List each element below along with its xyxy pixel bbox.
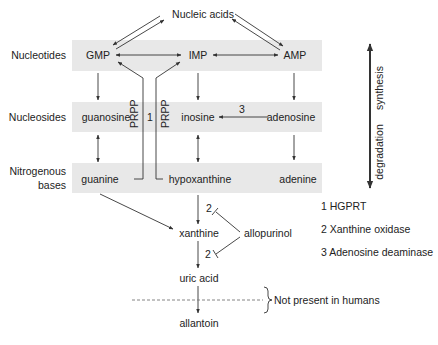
purine-metabolism-diagram: Nucleotides Nucleosides Nitrogenous base… [0,0,438,345]
node-adenosine: adenosine [267,111,316,123]
node-amp: AMP [284,49,307,61]
synthesis-label: synthesis [373,66,385,110]
row-label-bases-line1: Nitrogenous [9,165,66,177]
row-label-nucleosides: Nucleosides [9,111,66,123]
node-adenine: adenine [279,173,317,185]
row-label-bases-line2: bases [38,179,66,191]
node-uric-acid: uric acid [179,272,218,284]
node-inosine: inosine [181,111,214,123]
node-allopurinol: allopurinol [244,227,292,239]
node-guanosine: guanosine [82,111,131,123]
not-present-brace [264,287,272,313]
legend-item-1: 1 HGPRT [321,200,367,212]
enzyme-label-2-lower: 2 [205,248,211,260]
inhibit-bar-upper [212,208,218,215]
not-present-note: Not present in humans [274,294,380,306]
node-xanthine: xanthine [179,227,219,239]
arrow-guanine-xanthine [100,194,173,229]
inhibit-line-lower [216,237,240,254]
inhibit-line-upper [216,212,240,232]
enzyme-label-2-upper: 2 [206,202,212,214]
legend-item-2: 2 Xanthine oxidase [321,223,410,235]
degradation-label: degradation [373,124,385,180]
node-gmp: GMP [86,49,110,61]
legend-item-3: 3 Adenosine deaminase [321,246,433,258]
node-guanine: guanine [81,173,119,185]
node-hypoxanthine: hypoxanthine [169,173,232,185]
prpp-left-label: PRPP [128,99,140,128]
row-label-nucleotides: Nucleotides [11,49,66,61]
node-nucleic-acids: Nucleic acids [172,8,234,20]
node-allantoin: allantoin [179,317,218,329]
node-imp: IMP [189,49,208,61]
prpp-right-label: PRPP [159,99,171,128]
enzyme-label-3: 3 [239,103,245,115]
inhibit-bar-lower [213,250,218,258]
enzyme-label-1: 1 [147,111,153,123]
